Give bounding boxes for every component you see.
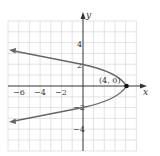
y-tick--4: −4 xyxy=(73,125,85,134)
y-axis-arrow-icon xyxy=(81,12,86,19)
vertex-point xyxy=(124,84,129,89)
y-axis-label: y xyxy=(85,10,92,20)
x-tick--6: −6 xyxy=(13,88,25,97)
vertex-label: (4, 0) xyxy=(99,76,121,85)
x-tick--4: −4 xyxy=(34,88,46,97)
y-tick-2: 2 xyxy=(77,61,82,70)
curve-arrow-lower-icon xyxy=(9,119,16,125)
graph: x y −6 −4 −2 4 2 −2 −4 (4, 0) xyxy=(0,0,160,156)
x-axis-label: x xyxy=(143,87,148,97)
curve-arrow-upper-icon xyxy=(9,48,16,54)
x-tick--2: −2 xyxy=(55,88,67,97)
y-tick-4: 4 xyxy=(77,40,82,49)
